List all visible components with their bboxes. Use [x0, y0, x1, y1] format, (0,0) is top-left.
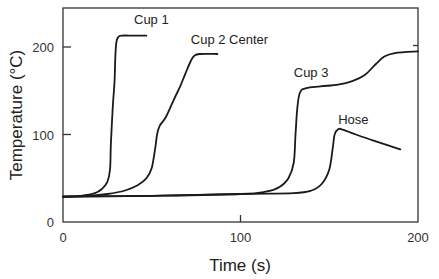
x-tick-label: 0 — [59, 230, 66, 245]
x-tick-label: 200 — [407, 230, 429, 245]
series-line-cup-2-center — [63, 54, 217, 197]
series-line-cup-1 — [63, 35, 146, 196]
series-label-hose: Hose — [338, 112, 368, 127]
y-tick-label: 0 — [47, 215, 54, 230]
y-tick-label: 100 — [32, 128, 54, 143]
y-axis-label: Temperature (°C) — [7, 50, 26, 181]
x-axis-ticks: 0100200 — [59, 215, 428, 245]
y-axis-ticks: 0100200 — [32, 40, 418, 230]
x-axis-label: Time (s) — [209, 256, 271, 275]
x-tick-label: 100 — [230, 230, 252, 245]
series-label-cup-1: Cup 1 — [134, 12, 169, 27]
series-label-cup-3: Cup 3 — [294, 65, 329, 80]
y-tick-label: 200 — [32, 40, 54, 55]
temperature-time-chart: 0100200 0100200 Cup 1Cup 2 CenterCup 3Ho… — [0, 0, 439, 279]
series-label-cup-2-center: Cup 2 Center — [191, 32, 269, 47]
series-line-hose — [63, 129, 400, 197]
